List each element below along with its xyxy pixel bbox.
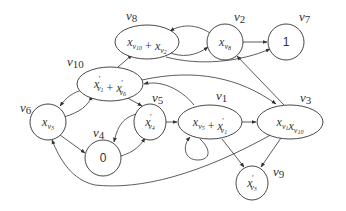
edge-v3-to-v2 — [237, 56, 284, 105]
graph-diagram: xv10 + xv2v8xv8v21v7x′v1 + x′v6v10xv3v6x… — [0, 0, 346, 211]
node-v9: x′v3v9 — [236, 164, 285, 200]
node-v6: xv3v6 — [20, 100, 66, 140]
node-v1: xv5 + x′v1v1 — [178, 88, 242, 139]
node-content-v7: 1 — [283, 35, 290, 49]
edge-v2-to-v8 — [170, 26, 210, 33]
node-v5: x′v4v5 — [134, 90, 166, 140]
node-v2: xv8v2 — [207, 9, 245, 60]
edge-v5-to-v4 — [114, 114, 136, 142]
edge-v6-to-v4 — [60, 135, 85, 153]
node-v4: 0v4 — [85, 125, 121, 176]
node-v7: 1v7 — [268, 9, 311, 60]
node-label-v3: v3 — [300, 90, 312, 106]
node-label-v8: v8 — [126, 8, 138, 24]
node-label-v4: v4 — [93, 125, 105, 141]
node-v3: xv1xv10v3 — [257, 90, 323, 139]
edge-v4-to-v5 — [121, 138, 145, 156]
node-v8: xv10 + xv2v8 — [115, 8, 179, 59]
node-label-v10: v10 — [67, 54, 84, 70]
edge-v1-to-v9 — [222, 139, 244, 167]
node-label-v9: v9 — [273, 164, 285, 180]
node-label-v2: v2 — [234, 9, 245, 25]
edge-v3-to-v9 — [261, 138, 281, 167]
node-label-v5: v5 — [152, 90, 164, 106]
edge-v1-to-v1 — [185, 137, 208, 160]
node-v10: x′v1 + x′v6v10 — [67, 54, 143, 101]
node-label-v1: v1 — [216, 88, 227, 104]
node-content-v4: 0 — [100, 151, 107, 165]
edge-v6-to-v10 — [64, 96, 92, 117]
node-label-v7: v7 — [299, 9, 311, 25]
nodes-layer: xv10 + xv2v8xv8v21v7x′v1 + x′v6v10xv3v6x… — [20, 8, 323, 200]
node-label-v6: v6 — [20, 100, 32, 116]
